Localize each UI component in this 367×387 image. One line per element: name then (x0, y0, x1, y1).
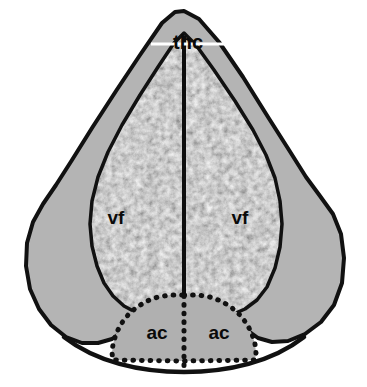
label-thc: thc (173, 31, 203, 53)
label-vf-left: vf (108, 207, 126, 228)
anatomical-diagram: thc vf vf ac ac (0, 0, 367, 387)
label-ac-left: ac (146, 322, 168, 343)
label-ac-right: ac (208, 322, 230, 343)
figure-root: thc vf vf ac ac (0, 0, 367, 387)
label-vf-right: vf (232, 207, 250, 228)
